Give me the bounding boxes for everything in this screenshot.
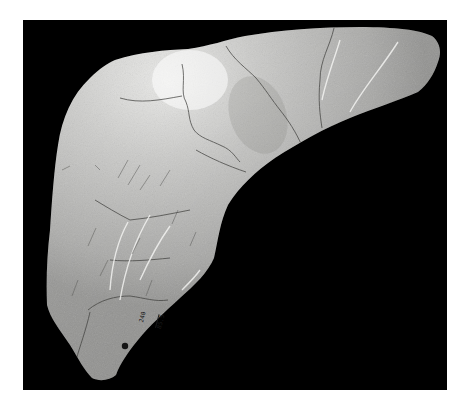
bone-fragment	[0, 0, 468, 410]
specimen-dot	[122, 343, 128, 349]
specimen-number-bottom: 85.5	[155, 314, 166, 330]
specimen-number-top: 240	[138, 309, 148, 325]
